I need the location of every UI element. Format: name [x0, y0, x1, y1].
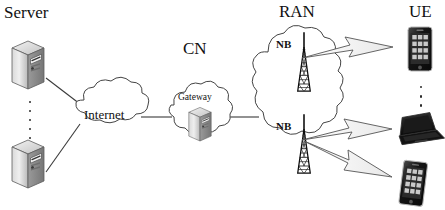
- node-label-gateway: Gateway: [178, 93, 212, 103]
- laptop-icon: [397, 111, 445, 145]
- smartphone-icon: [408, 27, 432, 71]
- server-tower-icon: [189, 107, 211, 141]
- group-label-server: Server: [4, 4, 48, 21]
- ellipsis-dot: [29, 128, 31, 130]
- node-label-nodeb-top: NB: [276, 39, 291, 50]
- ellipsis-dot: [29, 101, 31, 103]
- group-label-ue: UE: [409, 3, 432, 20]
- ellipsis-dot: [420, 114, 422, 116]
- ellipsis-dot: [420, 104, 422, 106]
- lightning-bolt-icon: [304, 141, 392, 177]
- ellipsis-dot: [29, 137, 31, 139]
- group-label-ran: RAN: [279, 3, 315, 20]
- ellipsis-dot: [420, 86, 422, 88]
- smartphone-icon: [399, 160, 428, 207]
- ellipsis-dot: [29, 110, 31, 112]
- cloud-ran: [252, 25, 343, 134]
- server-ellipsis: [29, 101, 31, 139]
- link-server-top-internet: [46, 78, 80, 104]
- ellipsis-dot: [29, 119, 31, 121]
- ellipsis-dot: [420, 95, 422, 97]
- group-label-cn: CN: [183, 40, 207, 57]
- node-label-nodeb-bottom: NB: [276, 121, 291, 132]
- diagram-canvas: [0, 0, 445, 210]
- server-tower-icon: [12, 41, 44, 89]
- network-diagram: Server CN RAN UE Internet Gateway NB NB: [0, 0, 445, 210]
- server-tower-icon: [12, 140, 44, 188]
- link-server-bottom-internet: [46, 124, 80, 172]
- cloud-label-internet: Internet: [84, 108, 124, 121]
- ue-ellipsis: [420, 86, 422, 116]
